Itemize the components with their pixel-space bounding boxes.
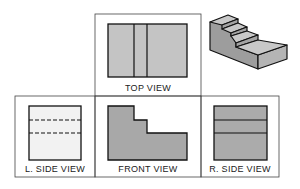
orthographic-projection-diagram: TOP VIEW L. SIDE VIEW FRONT VIEW R. SIDE… — [0, 0, 300, 189]
left-side-view-label: L. SIDE VIEW — [25, 164, 85, 174]
front-view-label: FRONT VIEW — [118, 164, 178, 174]
left-side-view-drawing — [29, 106, 81, 160]
isometric-stepped-block-icon — [210, 15, 287, 69]
top-view-drawing — [108, 24, 187, 77]
top-view-label: TOP VIEW — [125, 83, 171, 93]
right-side-view-drawing — [214, 106, 267, 160]
right-side-view-label: R. SIDE VIEW — [209, 164, 271, 174]
front-view-drawing — [108, 106, 187, 160]
